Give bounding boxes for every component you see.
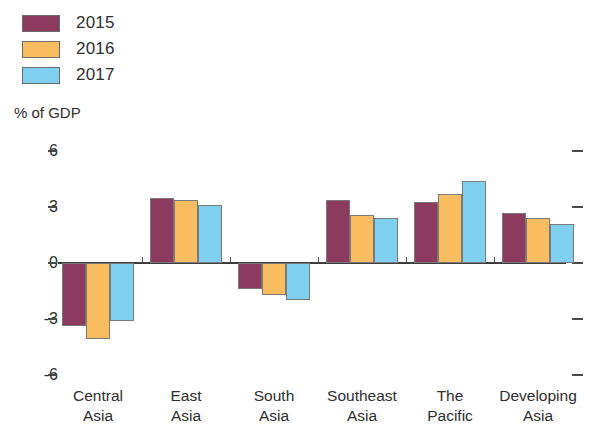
x-axis-category-label-line: Asia bbox=[254, 406, 295, 426]
x-axis-category-label-line: Pacific bbox=[427, 406, 473, 426]
x-axis-category-label-line: The bbox=[427, 386, 473, 406]
x-axis-category-label: CentralAsia bbox=[73, 386, 123, 426]
x-axis-category-label-line: East bbox=[170, 386, 201, 406]
y-axis-tick-mark-left bbox=[48, 206, 57, 208]
zero-baseline bbox=[58, 262, 566, 264]
bar bbox=[374, 218, 398, 263]
x-axis-minor-tick bbox=[230, 257, 231, 262]
x-axis-category-label: ThePacific bbox=[427, 386, 473, 426]
bar bbox=[286, 263, 310, 300]
x-axis-category-label: SoutheastAsia bbox=[327, 386, 397, 426]
bar bbox=[110, 263, 134, 321]
y-axis-tick-mark-right bbox=[572, 318, 583, 320]
bar bbox=[198, 205, 222, 263]
bar bbox=[350, 215, 374, 263]
bar bbox=[502, 213, 526, 263]
bar bbox=[86, 263, 110, 339]
bar-chart-plot-area: 630-3-6CentralAsiaEastAsiaSouthAsiaSouth… bbox=[0, 0, 589, 427]
x-axis-category-label: DevelopingAsia bbox=[499, 386, 577, 426]
y-axis-tick-mark-left bbox=[48, 262, 57, 264]
y-axis-tick-mark-left bbox=[48, 150, 57, 152]
x-axis-category-label-line: Central bbox=[73, 386, 123, 406]
x-axis-minor-tick bbox=[318, 257, 319, 262]
x-axis-category-label-line: Developing bbox=[499, 386, 577, 406]
bar bbox=[150, 198, 174, 263]
y-axis-tick-mark-left bbox=[48, 374, 57, 376]
y-axis-tick-mark-right bbox=[572, 206, 583, 208]
x-axis-category-label-line: Asia bbox=[499, 406, 577, 426]
bar bbox=[414, 202, 438, 263]
bar bbox=[462, 181, 486, 263]
x-axis-category-label-line: South bbox=[254, 386, 295, 406]
bar bbox=[438, 194, 462, 263]
x-axis-category-label-line: Asia bbox=[170, 406, 201, 426]
y-axis-tick-mark-left bbox=[48, 318, 57, 320]
x-axis-category-label: SouthAsia bbox=[254, 386, 295, 426]
bar bbox=[174, 200, 198, 263]
bar bbox=[550, 224, 574, 263]
x-axis-category-label-line: Southeast bbox=[327, 386, 397, 406]
x-axis-minor-tick bbox=[406, 257, 407, 262]
bar bbox=[526, 218, 550, 263]
y-axis-tick-mark-right bbox=[572, 150, 583, 152]
x-axis-category-label-line: Asia bbox=[327, 406, 397, 426]
x-axis-category-label-line: Asia bbox=[73, 406, 123, 426]
x-axis-minor-tick bbox=[142, 257, 143, 262]
bar bbox=[326, 200, 350, 263]
y-axis-tick-mark-right bbox=[572, 374, 583, 376]
bar bbox=[62, 263, 86, 326]
x-axis-minor-tick bbox=[494, 257, 495, 262]
bar bbox=[238, 263, 262, 289]
bar bbox=[262, 263, 286, 295]
x-axis-category-label: EastAsia bbox=[170, 386, 201, 426]
